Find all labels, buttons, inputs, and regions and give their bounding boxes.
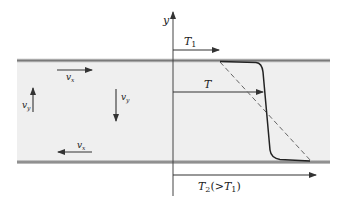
t1-label: T1 [184, 35, 196, 49]
y-axis-label: y [162, 14, 170, 27]
t2-label: T2(>T1) [198, 180, 241, 194]
convection-diagram: y T1 T T2(>T1) vx vx vy vy [0, 0, 342, 211]
